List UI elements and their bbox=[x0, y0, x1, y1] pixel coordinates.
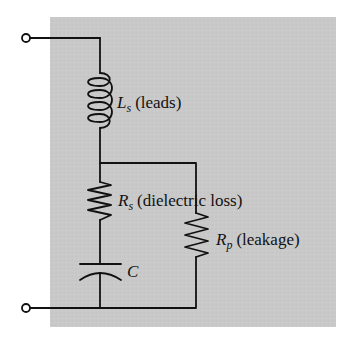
background-panel bbox=[50, 17, 336, 327]
circuit-diagram: Ls(leads) Rs(dielectric loss) C Rp(leaka… bbox=[0, 0, 358, 346]
circuit-svg: Ls(leads) Rs(dielectric loss) C Rp(leaka… bbox=[0, 0, 358, 346]
top-terminal[interactable] bbox=[22, 34, 30, 42]
inductor-label: Ls(leads) bbox=[116, 93, 181, 115]
bottom-terminal[interactable] bbox=[22, 304, 30, 312]
capacitor-label: C bbox=[127, 262, 139, 281]
